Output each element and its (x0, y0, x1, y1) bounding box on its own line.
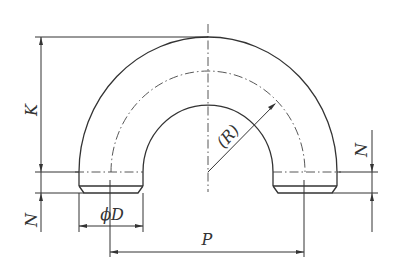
label-phid: ϕD (100, 205, 124, 224)
label-n-left: N (22, 212, 41, 228)
phid-arrow-left (79, 224, 87, 228)
radius-arrow (268, 103, 276, 110)
phid-arrow-right (135, 224, 143, 228)
n-right-arrow-top (370, 164, 374, 172)
n-right-arrow-bottom (370, 193, 374, 201)
label-r: (R) (213, 121, 244, 152)
label-k: K (22, 103, 41, 117)
label-n-right: N (352, 142, 371, 158)
n-left-arrow (39, 193, 43, 201)
p-arrow-left (110, 250, 118, 254)
right-end-bevel (273, 186, 337, 193)
label-p: P (201, 230, 213, 249)
left-end-bevel (79, 186, 143, 193)
u-bend-drawing: K N ϕD P (R) N (0, 0, 403, 274)
k-arrow-top (39, 37, 43, 45)
k-arrow-bottom (39, 164, 43, 172)
p-arrow-right (296, 250, 304, 254)
